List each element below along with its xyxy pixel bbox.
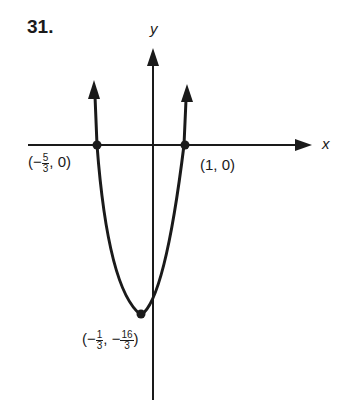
vertex-label: (−13, −163)	[82, 330, 139, 351]
y-axis-arrow-icon	[147, 48, 159, 66]
left-intercept-point	[93, 141, 102, 150]
vertex-point	[137, 310, 146, 319]
x-axis-arrow-icon	[295, 139, 312, 151]
curve-right-arrow-icon	[181, 84, 193, 102]
left-intercept-label: (−53, 0)	[28, 153, 71, 174]
curve-left-arrow-icon	[88, 80, 100, 99]
right-intercept-point	[181, 141, 190, 150]
graph	[0, 0, 344, 413]
parabola-curve	[95, 96, 186, 315]
x-axis-label: x	[322, 135, 330, 152]
y-axis-label: y	[150, 20, 158, 37]
right-intercept-label: (1, 0)	[200, 156, 235, 173]
